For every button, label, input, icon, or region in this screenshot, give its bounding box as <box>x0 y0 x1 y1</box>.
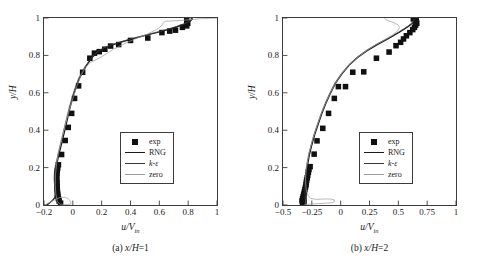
x-tick-label: 0 <box>71 208 76 217</box>
legend-label-rng: RNG <box>384 149 405 157</box>
data-point <box>361 69 367 75</box>
x-tick-label: −0.5 <box>275 208 291 217</box>
legend-label-rng: RNG <box>145 149 166 157</box>
legend-label-exp: exp <box>145 138 161 146</box>
legend-item-zero: zero <box>364 169 407 180</box>
legend-b: exp RNG k-ε zero <box>359 132 413 184</box>
y-tick-label: 0.2 <box>29 163 40 172</box>
x-tick-label: 0.75 <box>419 208 435 217</box>
legend-item-ke: k-ε <box>364 158 407 169</box>
chart-panel-a: 00.20.40.60.81−0.200.20.40.60.81 y/H u/V… <box>0 0 238 265</box>
x-tick-label: 1 <box>215 208 220 217</box>
data-point <box>374 55 380 61</box>
data-point <box>320 126 326 132</box>
legend-label-ke: k-ε <box>145 160 158 168</box>
legend-label-zero: zero <box>145 171 163 179</box>
legend-marker-exp-icon <box>364 139 384 145</box>
y-axis-label-a: y/H <box>8 85 18 99</box>
x-tick-label: 0.6 <box>154 208 165 217</box>
caption-b: (b) x/H=2 <box>282 243 457 253</box>
legend-item-ke: k-ε <box>125 158 168 169</box>
legend-line-ke-icon <box>364 163 384 164</box>
caption-a-var: x/H <box>125 243 139 253</box>
x-axis-label-b-sub: in <box>374 227 379 234</box>
x-tick-label: 0.5 <box>393 208 404 217</box>
data-point <box>314 138 320 144</box>
legend-line-rng-icon <box>364 152 384 153</box>
legend-item-rng: RNG <box>125 147 168 158</box>
x-tick-label: 1 <box>454 208 459 217</box>
legend-line-zero-icon <box>125 174 145 175</box>
x-axis-label-a: u/Vin <box>43 222 218 234</box>
data-point <box>311 151 317 157</box>
x-axis-label-a-sub: in <box>135 227 140 234</box>
data-point <box>336 84 342 90</box>
figure-container: 00.20.40.60.81−0.200.20.40.60.81 y/H u/V… <box>0 0 477 265</box>
data-point <box>326 111 332 117</box>
data-point <box>343 84 349 90</box>
caption-b-value: =2 <box>378 243 388 253</box>
caption-b-var: x/H <box>364 243 378 253</box>
legend-label-zero: zero <box>384 171 402 179</box>
x-tick-label: 0.8 <box>183 208 194 217</box>
legend-line-rng-icon <box>125 152 145 153</box>
legend-marker-exp-icon <box>125 139 145 145</box>
legend-item-zero: zero <box>125 169 168 180</box>
y-tick-label: 0.8 <box>268 51 279 60</box>
caption-b-prefix: (b) <box>351 243 364 253</box>
x-tick-label: 0.2 <box>96 208 107 217</box>
legend-label-ke: k-ε <box>384 160 397 168</box>
y-tick-label: 0.2 <box>268 163 279 172</box>
y-tick-label: 0.8 <box>29 51 40 60</box>
legend-item-exp: exp <box>125 136 168 147</box>
legend-item-rng: RNG <box>364 147 407 158</box>
data-point <box>145 35 151 41</box>
x-axis-label-b-main: u/V <box>360 222 373 232</box>
x-tick-label: −0.2 <box>36 208 52 217</box>
caption-a-prefix: (a) <box>112 243 125 253</box>
x-tick-label: 0.25 <box>362 208 378 217</box>
x-axis-label-a-main: u/V <box>121 222 134 232</box>
caption-a: (a) x/H=1 <box>43 243 218 253</box>
data-point <box>332 96 338 102</box>
y-tick-label: 0.6 <box>268 88 279 97</box>
y-tick-label: 1 <box>275 14 280 23</box>
data-point <box>386 49 392 55</box>
x-tick-label: 0.4 <box>125 208 136 217</box>
x-axis-label-b: u/Vin <box>282 222 457 234</box>
x-tick-label: 0 <box>338 208 343 217</box>
x-tick-label: −0.25 <box>301 208 322 217</box>
legend-line-zero-icon <box>364 174 384 175</box>
caption-a-value: =1 <box>139 243 149 253</box>
y-tick-label: 0.6 <box>29 88 40 97</box>
legend-a: exp RNG k-ε zero <box>120 132 174 184</box>
legend-line-ke-icon <box>125 163 145 164</box>
data-point <box>350 69 356 75</box>
y-tick-label: 0.4 <box>29 126 40 135</box>
y-tick-label: 1 <box>36 14 41 23</box>
y-axis-label-b: y/H <box>247 85 257 99</box>
legend-label-exp: exp <box>384 138 400 146</box>
legend-item-exp: exp <box>364 136 407 147</box>
y-tick-label: 0.4 <box>268 126 279 135</box>
chart-panel-b: 00.20.40.60.81−0.5−0.2500.250.50.751 y/H… <box>239 0 477 265</box>
